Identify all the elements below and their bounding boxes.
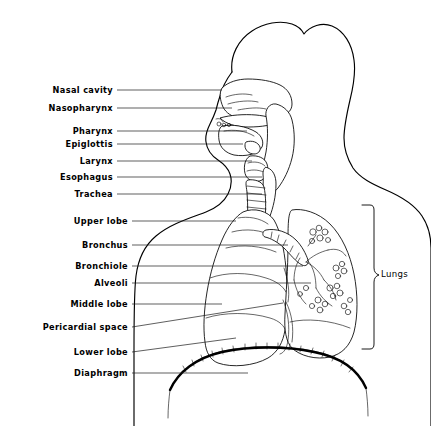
label-bronchiole: Bronchiole bbox=[75, 261, 128, 271]
label-epiglottis: Epiglottis bbox=[65, 139, 113, 149]
label-bronchus: Bronchus bbox=[82, 240, 128, 250]
label-upper-lobe: Upper lobe bbox=[74, 216, 128, 226]
label-nasal-cavity: Nasal cavity bbox=[53, 85, 114, 95]
label-nasopharynx: Nasopharynx bbox=[49, 103, 114, 113]
label-group-left: Nasal cavityNasopharynxPharynxEpiglottis… bbox=[43, 85, 128, 378]
lungs-brace bbox=[362, 205, 379, 349]
label-diaphragm: Diaphragm bbox=[74, 368, 128, 378]
label-lower-lobe: Lower lobe bbox=[74, 347, 128, 357]
label-middle-lobe: Middle lobe bbox=[70, 299, 128, 309]
label-group-right: Lungs bbox=[381, 269, 408, 279]
label-trachea: Trachea bbox=[75, 189, 113, 199]
label-pharynx: Pharynx bbox=[73, 126, 114, 136]
label-pericardial-space: Pericardial space bbox=[43, 322, 128, 332]
respiratory-system-diagram: Nasal cavityNasopharynxPharynxEpiglottis… bbox=[0, 0, 431, 426]
body-outline bbox=[134, 22, 431, 426]
anatomy-illustration: Nasal cavityNasopharynxPharynxEpiglottis… bbox=[0, 0, 431, 426]
label-esophagus: Esophagus bbox=[60, 172, 113, 182]
label-larynx: Larynx bbox=[80, 156, 114, 166]
label-lungs: Lungs bbox=[381, 269, 408, 279]
label-alveoli: Alveoli bbox=[94, 278, 128, 288]
